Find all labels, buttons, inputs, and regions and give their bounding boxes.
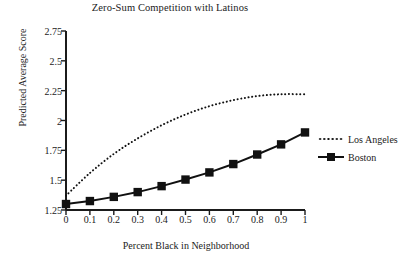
legend-item-los-angeles: Los Angeles [318, 130, 398, 148]
series-boston [62, 128, 309, 208]
legend-label: Boston [348, 152, 376, 163]
chart-legend: Los Angeles Boston [318, 130, 398, 166]
legend-label: Los Angeles [348, 134, 398, 145]
solid-line-square-marker-icon [318, 151, 344, 163]
legend-item-boston: Boston [318, 148, 398, 166]
dotted-line-icon [318, 133, 344, 145]
chart-figure: Zero-Sum Competition with Latinos Predic… [0, 0, 417, 270]
